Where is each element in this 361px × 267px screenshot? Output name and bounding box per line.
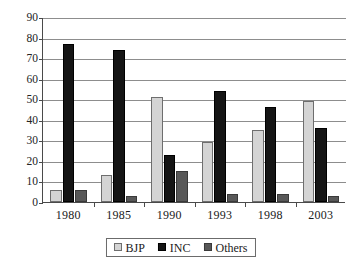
legend-label: BJP: [125, 242, 144, 254]
bar-others-1998: [277, 194, 289, 202]
bar-inc-1990: [164, 155, 176, 202]
legend-label: INC: [170, 242, 191, 254]
x-tick-2: [144, 202, 145, 207]
bar-chart: 0102030405060708090 19801985199019931998…: [0, 0, 361, 267]
y-tick-label-50: 50: [27, 94, 39, 106]
x-tick-5: [296, 202, 297, 207]
y-tick-label-0: 0: [32, 197, 38, 209]
y-tick-label-10: 10: [27, 177, 39, 189]
bar-bjp-1985: [101, 175, 113, 202]
bar-inc-1993: [214, 91, 226, 202]
plot-area: 0102030405060708090 19801985199019931998…: [42, 18, 345, 203]
bar-others-1980: [75, 190, 87, 202]
y-tick-60: [39, 80, 43, 81]
y-tick-label-60: 60: [27, 74, 39, 86]
bar-inc-1980: [63, 44, 75, 202]
gridline-70: [43, 59, 346, 60]
x-tick-label-1980: 1980: [56, 209, 81, 221]
legend-item-others: Others: [204, 241, 248, 253]
bar-bjp-1993: [202, 142, 214, 202]
x-tick-label-1985: 1985: [106, 209, 131, 221]
y-tick-0: [39, 203, 43, 204]
legend-swatch-others-icon: [204, 243, 212, 251]
y-tick-50: [39, 100, 43, 101]
x-tick-3: [195, 202, 196, 207]
gridline-30: [43, 141, 346, 142]
x-tick-label-2003: 2003: [308, 209, 333, 221]
y-tick-80: [39, 39, 43, 40]
gridline-20: [43, 162, 346, 163]
y-tick-label-70: 70: [27, 53, 39, 65]
bar-inc-1998: [265, 107, 277, 202]
x-tick-label-1993: 1993: [207, 209, 232, 221]
x-tick-4: [245, 202, 246, 207]
chart-legend: BJPINCOthers: [105, 238, 255, 257]
gridline-50: [43, 100, 346, 101]
y-tick-70: [39, 59, 43, 60]
x-tick-label-1990: 1990: [157, 209, 182, 221]
gridline-60: [43, 80, 346, 81]
x-tick-label-1998: 1998: [258, 209, 283, 221]
y-tick-30: [39, 141, 43, 142]
x-tick-1: [94, 202, 95, 207]
bar-bjp-1990: [151, 97, 163, 202]
bar-inc-1985: [113, 50, 125, 202]
bar-bjp-2003: [303, 101, 315, 202]
y-tick-20: [39, 162, 43, 163]
bar-others-1993: [227, 194, 239, 202]
bar-bjp-1980: [50, 190, 62, 202]
legend-swatch-bjp-icon: [113, 243, 121, 251]
y-tick-label-30: 30: [27, 136, 39, 148]
gridline-40: [43, 121, 346, 122]
gridline-80: [43, 39, 346, 40]
y-tick-label-80: 80: [27, 33, 39, 45]
y-tick-10: [39, 182, 43, 183]
bar-bjp-1998: [252, 130, 264, 202]
y-tick-40: [39, 121, 43, 122]
gridline-10: [43, 182, 346, 183]
legend-swatch-inc-icon: [158, 243, 166, 251]
bar-others-1985: [126, 196, 138, 202]
y-tick-label-20: 20: [27, 156, 39, 168]
legend-item-inc: INC: [158, 241, 191, 253]
y-tick-label-40: 40: [27, 115, 39, 127]
y-tick-label-90: 90: [27, 12, 39, 24]
bar-inc-2003: [315, 128, 327, 202]
legend-item-bjp: BJP: [113, 241, 144, 253]
y-tick-90: [39, 18, 43, 19]
bar-others-2003: [328, 196, 340, 202]
legend-label: Others: [216, 242, 248, 254]
gridline-90: [43, 18, 346, 19]
bar-others-1990: [176, 171, 188, 202]
